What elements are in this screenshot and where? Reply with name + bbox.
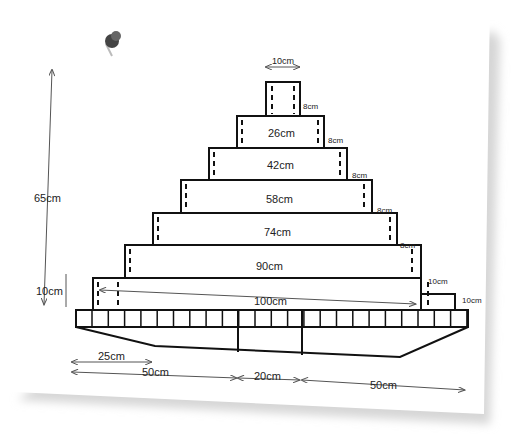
side-depth-label: 10cm bbox=[462, 296, 482, 305]
base-dim-25: 25cm bbox=[98, 350, 125, 362]
step-3-label: 8cm bbox=[352, 171, 367, 180]
base-slats bbox=[92, 310, 467, 327]
step-1-label: 8cm bbox=[303, 102, 318, 111]
base-dim-50-right: 50cm bbox=[370, 379, 397, 391]
pyramid-shelf-diagram: 65cm 10cm 10cm 26cm 42cm 58cm 74cm 90cm … bbox=[0, 0, 514, 434]
tier-height-label: 10cm bbox=[36, 285, 63, 297]
overall-height-label: 65cm bbox=[34, 192, 61, 204]
base-dim-50-left: 50cm bbox=[142, 366, 169, 378]
step-5-label: 8cm bbox=[400, 241, 415, 250]
dashed-guides bbox=[98, 86, 428, 308]
pushpin-icon bbox=[105, 31, 121, 56]
tier-2-label: 42cm bbox=[267, 159, 294, 171]
base-dim-20: 20cm bbox=[254, 370, 281, 382]
step-6-label: 10cm bbox=[428, 277, 448, 286]
tier-3-label: 58cm bbox=[266, 193, 293, 205]
step-2-label: 8cm bbox=[328, 136, 343, 145]
tier-1-label: 26cm bbox=[268, 127, 295, 139]
tier-5-label: 90cm bbox=[256, 260, 283, 272]
labels: 65cm 10cm 10cm 26cm 42cm 58cm 74cm 90cm … bbox=[34, 56, 482, 391]
step-4-label: 8cm bbox=[377, 206, 392, 215]
top-width-label: 10cm bbox=[272, 56, 294, 66]
tier-4-label: 74cm bbox=[264, 226, 291, 238]
tier-6-label: 100cm bbox=[254, 295, 287, 307]
